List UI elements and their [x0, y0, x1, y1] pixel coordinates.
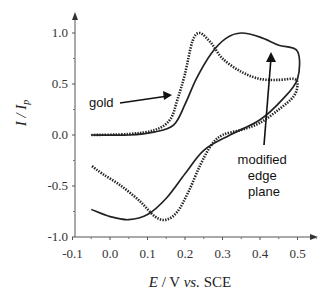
gold-arrow [120, 96, 168, 103]
x-tick-label: -0.1 [62, 246, 83, 261]
axes: 1.00.50.0-0.5-1.0 -0.10.00.10.20.30.40.5 [47, 12, 318, 261]
x-tick-label: 0.0 [102, 246, 118, 261]
modified-edge-plane-arrow [264, 58, 271, 145]
x-ticks: -0.10.00.10.20.30.40.5 [62, 237, 316, 261]
y-tick-label: 0.0 [52, 127, 68, 142]
y-tick-label: -0.5 [47, 178, 68, 193]
x-axis-title: E / V vs. SCE [148, 274, 231, 290]
x-axis-arrow-icon [310, 234, 318, 240]
x-tick-label: 0.3 [214, 246, 230, 261]
x-tick-label: 0.4 [252, 246, 269, 261]
y-tick-label: -1.0 [47, 229, 68, 244]
y-axis-arrow-icon [72, 12, 78, 20]
cyclic-voltammogram-chart: 1.00.50.0-0.5-1.0 -0.10.00.10.20.30.40.5… [0, 0, 327, 301]
y-ticks: 1.00.50.0-0.5-1.0 [47, 25, 75, 244]
y-tick-label: 1.0 [52, 25, 68, 40]
gold-arrowhead-icon [163, 91, 172, 100]
x-tick-label: 0.1 [139, 246, 155, 261]
x-tick-label: 0.5 [289, 246, 305, 261]
modified-edge-plane-arrowhead-icon [266, 52, 276, 62]
gold-label: gold [89, 95, 114, 110]
x-tick-label: 0.2 [177, 246, 193, 261]
y-axis-title: I / Ip [13, 100, 31, 128]
modified-edge-plane-label: modified edge plane [238, 152, 291, 199]
y-tick-label: 0.5 [52, 76, 68, 91]
